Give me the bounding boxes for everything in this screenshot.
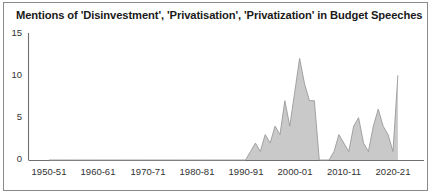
y-tick-label-10: 10 — [0, 69, 22, 80]
area-chart-plot — [0, 0, 431, 194]
chart-figure: Mentions of 'Disinvestment', 'Privatisat… — [0, 0, 431, 194]
y-tick-label-15: 15 — [0, 27, 22, 38]
x-tick-label-7: 2020-21 — [363, 166, 423, 177]
area-series-outline — [49, 58, 398, 160]
y-tick-label-0: 0 — [0, 153, 22, 164]
chart-axes — [29, 33, 425, 161]
area-series-fill — [49, 58, 398, 160]
y-tick-label-5: 5 — [0, 111, 22, 122]
data-series-group — [49, 58, 398, 160]
